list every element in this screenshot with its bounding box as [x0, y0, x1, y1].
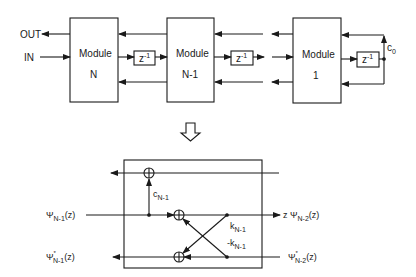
coef-c0-label: c0 — [387, 42, 396, 55]
delay-label-3: z-1 — [362, 53, 373, 65]
coef-negk-label: -kN-1 — [227, 238, 246, 250]
module-1-title: Module — [302, 49, 335, 60]
coef-k-label: kN-1 — [230, 221, 246, 233]
module-1-index: 1 — [313, 70, 319, 81]
in-label: IN — [24, 52, 34, 63]
delay-label-2: z-1 — [236, 52, 247, 64]
module-n-1-index: N-1 — [182, 69, 199, 80]
right-out-label: z ΨN-2(z) — [283, 210, 319, 222]
module-n-1-box — [167, 18, 214, 102]
coef-c-label: cN-1 — [153, 189, 169, 201]
lattice-filter-diagram: OUT IN Module N Module N-1 Module 1 z-1 … — [0, 0, 416, 277]
k-cross-down — [183, 215, 227, 253]
delay-label-1: z-1 — [139, 52, 150, 64]
module-n-box — [70, 18, 118, 102]
module-1-box — [293, 18, 341, 103]
negk-cross-up — [183, 219, 227, 257]
right-in-label: Ψ*N-2(z) — [288, 250, 317, 264]
left-in-label: ΨN-1(z) — [46, 210, 75, 222]
module-n-1-title: Module — [176, 48, 209, 59]
expand-down-arrow — [181, 123, 200, 141]
module-n-index: N — [90, 69, 97, 80]
out-label: OUT — [20, 29, 41, 40]
module-n-title: Module — [79, 48, 112, 59]
left-out-label: Ψ*N-1(z) — [46, 250, 75, 264]
